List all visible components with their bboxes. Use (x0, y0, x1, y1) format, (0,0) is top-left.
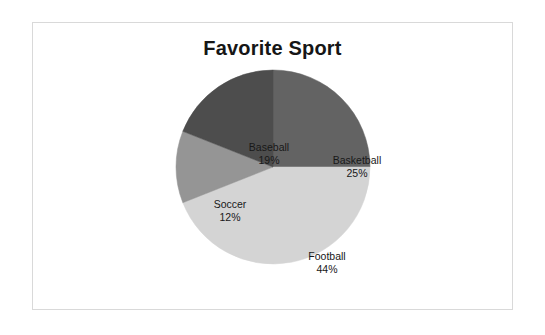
pie-label-soccer: Soccer 12% (196, 198, 264, 224)
pie-label-football-name: Football (287, 250, 367, 263)
pie-label-baseball: Baseball 19% (229, 141, 309, 167)
pie-label-baseball-name: Baseball (229, 141, 309, 154)
pie-label-baseball-value: 19% (229, 154, 309, 167)
pie-label-basketball: Basketball 25% (317, 154, 397, 180)
pie-label-soccer-name: Soccer (196, 198, 264, 211)
pie-label-football: Football 44% (287, 250, 367, 276)
pie-label-basketball-name: Basketball (317, 154, 397, 167)
chart-frame: Favorite Sport Basketball 25% Football 4… (32, 22, 513, 310)
pie-label-football-value: 44% (287, 263, 367, 276)
pie-label-soccer-value: 12% (196, 211, 264, 224)
pie-label-basketball-value: 25% (317, 167, 397, 180)
chart-title: Favorite Sport (33, 37, 512, 60)
